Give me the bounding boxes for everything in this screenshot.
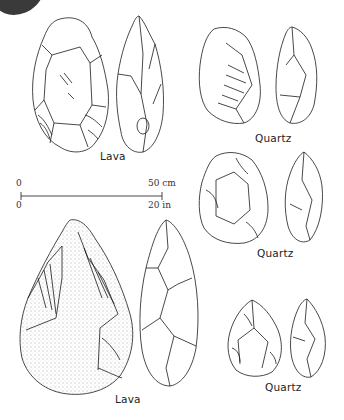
quartz-tool-2-face <box>196 150 271 245</box>
label-lava-top: Lava <box>100 150 126 162</box>
quartz-tool-1-face <box>196 25 266 125</box>
scale-zero-cm: 0 <box>16 178 22 188</box>
stone-photo-fragment <box>0 0 45 15</box>
label-lava-bottom: Lava <box>115 393 141 405</box>
quartz-tool-3-profile <box>287 297 332 382</box>
quartz-tool-1-profile <box>272 25 322 125</box>
scale-50-cm: 50 cm <box>148 178 176 188</box>
lava-handaxe-1-profile <box>113 14 168 154</box>
quartz-tool-2-profile <box>282 150 327 245</box>
scale-zero-in: 0 <box>16 200 22 210</box>
lava-handaxe-1-face <box>30 15 110 155</box>
lava-handaxe-2-face <box>18 218 138 398</box>
quartz-tool-3-face <box>224 298 284 380</box>
scale-bar <box>20 192 165 200</box>
label-quartz-1: Quartz <box>255 132 292 144</box>
label-quartz-3: Quartz <box>265 381 302 393</box>
label-quartz-2: Quartz <box>257 247 294 259</box>
scale-20-in: 20 in <box>148 200 171 210</box>
lava-handaxe-2-profile <box>138 218 203 388</box>
